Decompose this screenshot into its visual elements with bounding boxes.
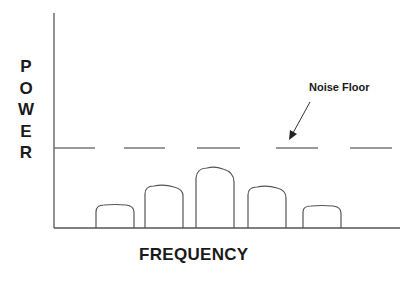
- signal-1: [96, 205, 134, 229]
- signal-5: [303, 206, 341, 229]
- y-axis-letter: E: [20, 121, 31, 143]
- spectrum-diagram: [0, 0, 416, 282]
- y-axis-letter: W: [18, 99, 34, 121]
- noise-floor-annotation: Noise Floor: [309, 81, 370, 93]
- signal-3: [196, 167, 234, 228]
- x-axis-label: FREQUENCY: [139, 245, 248, 265]
- signals: [96, 167, 341, 228]
- y-axis-label: P O W E R: [16, 56, 36, 164]
- annotation-arrow: [289, 102, 310, 140]
- signal-4: [248, 186, 286, 228]
- y-axis-letter: P: [20, 56, 31, 78]
- y-axis-letter: O: [19, 78, 32, 100]
- signal-2: [145, 185, 183, 228]
- y-axis-letter: R: [20, 142, 32, 164]
